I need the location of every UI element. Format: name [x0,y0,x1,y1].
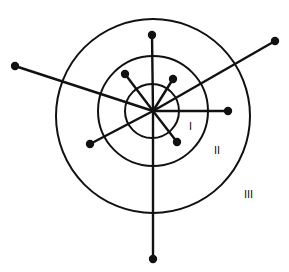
spokes [11,31,279,263]
spoke-lower-left [90,111,153,144]
spoke-top [152,35,153,111]
zone-label-III: III [244,188,253,200]
node-dot-upper-right-short [169,75,177,83]
node-dot-lower-left [86,140,94,148]
zone-labels: I II III [189,120,253,200]
spoke-far-left [15,66,153,111]
zone-label-II: II [214,144,220,156]
node-dot-far-left [11,62,19,70]
node-dot-upper-left-short [121,70,129,78]
node-dot-top [148,31,156,39]
zone-label-I: I [189,120,192,132]
node-dot-bottom [149,255,157,263]
node-dot-far-upper-right [271,37,279,45]
concentric-zone-diagram: I II III [0,0,289,272]
node-dot-right [224,107,232,115]
node-dot-lower-right-short [173,138,181,146]
